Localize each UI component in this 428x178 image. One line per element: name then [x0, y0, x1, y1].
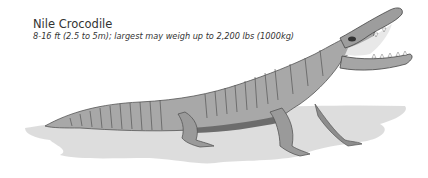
crocodile-illustration	[0, 0, 428, 178]
eye	[348, 37, 356, 42]
lower-jaw	[340, 54, 412, 70]
